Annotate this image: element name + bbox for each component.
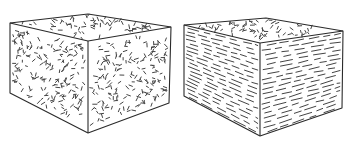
fiber-orientation-diagram: Randomly oriented fibers Horizontally al… — [0, 0, 356, 144]
cubes-canvas — [0, 0, 356, 144]
random-fiber-cube — [10, 14, 171, 133]
aligned-fiber-cube — [184, 18, 343, 136]
